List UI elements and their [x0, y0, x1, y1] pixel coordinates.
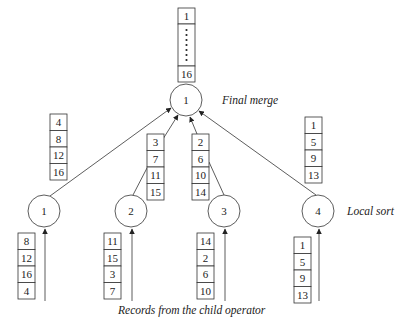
local-sort-layer: 1481216812164237111511153732610141426104… — [18, 114, 334, 303]
record-value: 13 — [308, 169, 320, 181]
edge-node3-to-run — [209, 162, 224, 195]
record-value: 14 — [200, 235, 212, 247]
record-value: 7 — [110, 285, 116, 297]
local-sort-node-4: 41591315913 — [294, 117, 334, 303]
record-value: 10 — [195, 169, 207, 181]
record-value: 13 — [297, 289, 309, 301]
record-value: 16 — [21, 268, 33, 280]
record-value: 4 — [56, 116, 62, 128]
merge-node: 1 — [170, 84, 202, 116]
edge-node4-to-merge — [199, 111, 316, 195]
local-sort-label: Local sort — [346, 205, 395, 217]
local-sort-node-1: 1481216812164 — [18, 114, 67, 301]
input-records: 15913 — [294, 237, 311, 303]
local-node-label: 2 — [128, 205, 134, 217]
local-node-label: 3 — [221, 205, 227, 217]
record-value: 3 — [110, 268, 116, 280]
record-value: 12 — [53, 149, 64, 161]
record-value: 10 — [200, 285, 212, 297]
record-value: 11 — [107, 235, 118, 247]
local-node-label: 1 — [41, 205, 47, 217]
record-value: 2 — [203, 252, 209, 264]
input-records: 812164 — [18, 233, 35, 299]
edge-node2-to-merge — [163, 115, 178, 139]
input-records: 111537 — [104, 233, 121, 299]
sorted-run: 15913 — [305, 117, 322, 183]
record-value: 3 — [153, 136, 159, 148]
record-value: 15 — [107, 252, 119, 264]
record-value: 6 — [203, 268, 209, 280]
record-value: 15 — [150, 186, 162, 198]
record-value: 1 — [311, 119, 317, 131]
sorted-run: 481216 — [50, 114, 67, 180]
sorted-run: 371115 — [147, 134, 164, 200]
record-value: 8 — [24, 235, 30, 247]
input-records: 142610 — [197, 233, 214, 299]
record-value: 2 — [198, 136, 204, 148]
local-sort-node-2: 2371115111537 — [104, 134, 164, 301]
record-value: 5 — [311, 136, 317, 148]
merge-edges — [50, 108, 316, 196]
record-value: 12 — [21, 252, 32, 264]
final-output-run: 1 16 — [178, 8, 195, 82]
sorted-run: 261014 — [192, 134, 209, 200]
record-value: 16 — [53, 166, 65, 178]
local-node-label: 4 — [315, 205, 321, 217]
merge-node-label: 1 — [183, 94, 189, 106]
edge-node2-to-run — [133, 168, 147, 195]
parallel-sort-diagram: 1 16 1 Final merge — [0, 0, 400, 331]
record-value: 9 — [311, 152, 317, 164]
record-value: 14 — [195, 186, 207, 198]
output-first-value: 1 — [184, 10, 190, 22]
output-last-value: 16 — [181, 68, 193, 80]
final-merge-label: Final merge — [221, 94, 278, 107]
record-value: 11 — [150, 169, 161, 181]
record-value: 7 — [153, 153, 159, 165]
record-value: 8 — [56, 133, 62, 145]
record-value: 9 — [300, 272, 306, 284]
record-value: 5 — [300, 256, 306, 268]
input-caption: Records from the child operator — [117, 304, 266, 317]
record-value: 1 — [300, 239, 306, 251]
local-sort-node-3: 3261014142610 — [192, 134, 240, 301]
edge-node3-to-merge — [190, 117, 197, 134]
record-value: 6 — [198, 153, 204, 165]
record-value: 4 — [24, 285, 30, 297]
